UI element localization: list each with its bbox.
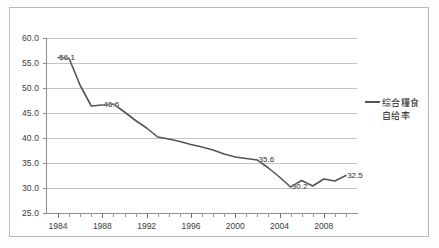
gridline bbox=[47, 63, 357, 64]
x-tick-mark-minor bbox=[268, 213, 269, 217]
x-tick-mark-minor bbox=[158, 213, 159, 217]
legend-line-icon bbox=[365, 97, 380, 106]
gridline bbox=[47, 163, 357, 164]
x-tick-mark-minor bbox=[136, 213, 137, 217]
data-label: 30.2 bbox=[292, 182, 308, 191]
y-tick-label: 25.0 bbox=[2, 208, 39, 218]
gridline bbox=[47, 113, 357, 114]
x-tick-label: 2008 bbox=[314, 221, 333, 231]
data-label: 46.6 bbox=[104, 100, 120, 109]
y-tick-label: 60.0 bbox=[2, 33, 39, 43]
gridline bbox=[47, 138, 357, 139]
x-tick-mark-major bbox=[191, 213, 192, 218]
legend-entry: 综合糧食 bbox=[365, 97, 433, 110]
y-tick-label: 55.0 bbox=[2, 58, 39, 68]
data-label: 32.5 bbox=[347, 170, 363, 179]
x-tick-mark-minor bbox=[335, 213, 336, 217]
legend-label-line1: 综合糧食 bbox=[382, 97, 419, 110]
x-tick-label: 2000 bbox=[226, 221, 245, 231]
gridline bbox=[47, 38, 357, 39]
x-tick-mark-minor bbox=[346, 213, 347, 217]
data-label: 56.1 bbox=[59, 52, 75, 61]
x-tick-label: 1996 bbox=[181, 221, 200, 231]
y-tick-label: 30.0 bbox=[2, 183, 39, 193]
gridline bbox=[47, 88, 357, 89]
x-tick-mark-minor bbox=[224, 213, 225, 217]
y-axis-line bbox=[46, 38, 47, 214]
scanned-page: 60.055.050.045.040.035.030.025.0 1984198… bbox=[0, 0, 439, 248]
x-tick-mark-major bbox=[147, 213, 148, 218]
x-tick-mark-minor bbox=[202, 213, 203, 217]
data-label: 35.6 bbox=[259, 155, 275, 164]
x-tick-label: 1992 bbox=[137, 221, 156, 231]
x-tick-mark-minor bbox=[180, 213, 181, 217]
x-tick-mark-minor bbox=[313, 213, 314, 217]
x-tick-mark-minor bbox=[291, 213, 292, 217]
x-tick-mark-minor bbox=[113, 213, 114, 217]
x-tick-mark-minor bbox=[80, 213, 81, 217]
x-tick-mark-minor bbox=[69, 213, 70, 217]
x-tick-mark-major bbox=[324, 213, 325, 218]
x-tick-mark-major bbox=[102, 213, 103, 218]
x-tick-mark-minor bbox=[125, 213, 126, 217]
y-tick-label: 50.0 bbox=[2, 83, 39, 93]
y-tick-label: 40.0 bbox=[2, 133, 39, 143]
x-tick-mark-minor bbox=[257, 213, 258, 217]
x-tick-mark-minor bbox=[91, 213, 92, 217]
x-tick-mark-major bbox=[235, 213, 236, 218]
gridline bbox=[47, 188, 357, 189]
x-tick-mark-major bbox=[58, 213, 59, 218]
x-tick-mark-minor bbox=[246, 213, 247, 217]
x-tick-label: 2004 bbox=[270, 221, 289, 231]
chart-legend: 综合糧食 自给率 bbox=[365, 97, 433, 123]
x-tick-mark-minor bbox=[213, 213, 214, 217]
x-tick-mark-major bbox=[280, 213, 281, 218]
y-tick-label: 35.0 bbox=[2, 158, 39, 168]
x-tick-label: 1984 bbox=[49, 221, 68, 231]
y-tick-label: 45.0 bbox=[2, 108, 39, 118]
legend-label-line2: 自给率 bbox=[382, 110, 433, 123]
x-tick-mark-minor bbox=[302, 213, 303, 217]
x-tick-label: 1988 bbox=[93, 221, 112, 231]
x-tick-mark-minor bbox=[169, 213, 170, 217]
